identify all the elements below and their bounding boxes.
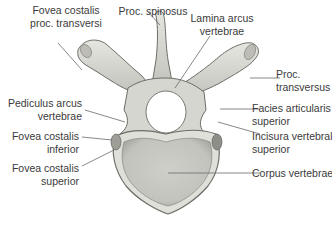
vertebral-foramen — [146, 91, 186, 133]
label-proc-transversus: Proc. transversus — [276, 68, 332, 94]
label-fovea-costalis-superior: Fovea costalis superior — [0, 162, 79, 188]
label-corpus-vertebrae: Corpus vertebrae — [252, 167, 332, 180]
spinous-process — [152, 11, 172, 84]
vertebra-diagram: Fovea costalis proc. transversi Proc. sp… — [0, 0, 332, 227]
label-fovea-costalis-inferior: Fovea costalis inferior — [0, 130, 79, 156]
label-pediculus-arcus-vertebrae: Pediculus arcus vertebrae — [0, 97, 82, 123]
label-incisura-vertebralis-superior: Incisura vertebralis superior — [252, 130, 332, 156]
label-fovea-costalis-proc-transversi: Fovea costalis proc. transversi — [24, 4, 108, 30]
label-facies-articularis-superior: Facies articularis superior — [252, 102, 332, 128]
label-lamina-arcus-vertebrae: Lamina arcus vertebrae — [184, 12, 260, 38]
